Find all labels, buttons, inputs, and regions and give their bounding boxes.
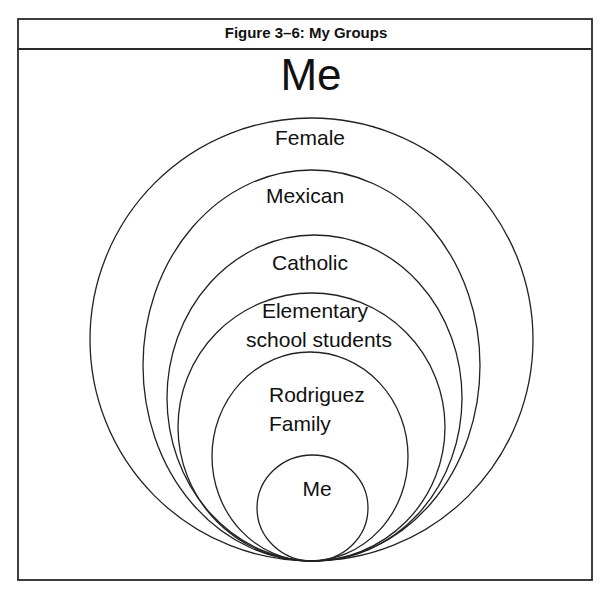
diagram-heading: Me bbox=[280, 50, 341, 99]
group-label-elementary-school-students: Elementary bbox=[262, 299, 369, 322]
group-label-mexican: Mexican bbox=[266, 184, 344, 207]
group-label-rodriguez-family: Rodriguez bbox=[269, 383, 365, 406]
my-groups-figure: Figure 3–6: My Groups Me FemaleMexicanCa… bbox=[0, 0, 609, 594]
figure-title: Figure 3–6: My Groups bbox=[225, 24, 388, 41]
group-circle-me bbox=[257, 455, 368, 561]
group-label-catholic: Catholic bbox=[272, 251, 348, 274]
group-label-me: Me bbox=[302, 477, 331, 500]
group-label-elementary-school-students: school students bbox=[246, 328, 392, 351]
group-label-rodriguez-family: Family bbox=[269, 412, 331, 435]
group-label-female: Female bbox=[275, 126, 345, 149]
